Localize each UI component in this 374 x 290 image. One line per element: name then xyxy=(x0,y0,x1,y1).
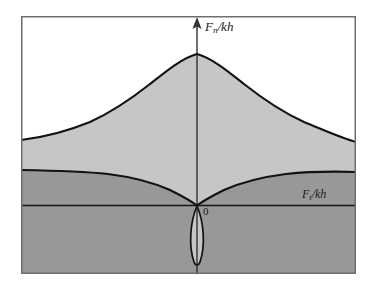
y-axis-label-rest: /kh xyxy=(218,19,234,34)
y-axis-label: Fn/kh xyxy=(205,20,233,35)
x-axis-label: Ft/kh xyxy=(302,188,326,202)
y-axis-label-var: F xyxy=(205,19,213,34)
figure-root: Fn/kh Ft/kh 0 xyxy=(0,0,374,290)
x-axis-label-rest: /kh xyxy=(312,187,327,201)
origin-label: 0 xyxy=(203,206,209,217)
force-diagram-plot xyxy=(0,0,374,290)
